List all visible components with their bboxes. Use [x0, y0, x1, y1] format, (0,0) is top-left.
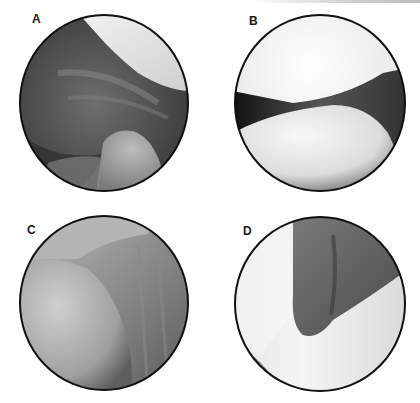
endoscopic-image-d	[233, 215, 407, 395]
endoscopic-image-a	[18, 13, 190, 193]
top-edge-line	[250, 0, 420, 3]
endoscopic-image-b	[233, 13, 407, 193]
endoscopic-image-c	[18, 214, 190, 394]
